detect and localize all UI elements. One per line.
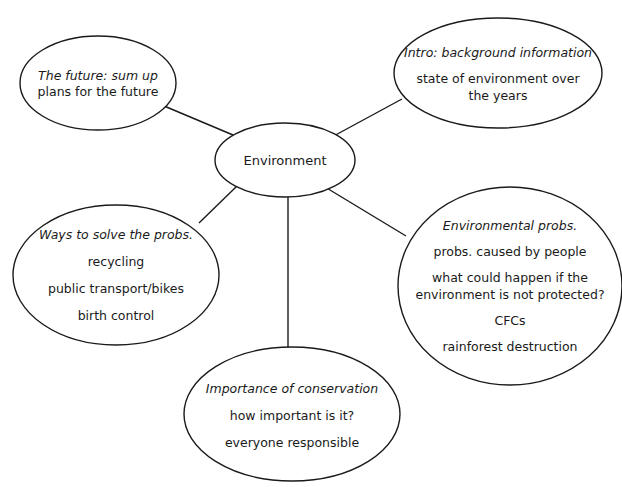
center-label: Environment: [243, 153, 326, 168]
branch-future: The future: sum up plans for the future: [22, 38, 174, 128]
branch-ways-item: recycling: [88, 254, 145, 269]
branch-intro: Intro: background information state of e…: [396, 20, 600, 128]
branch-importance-item: how important is it?: [230, 408, 354, 423]
branch-problems-item: environment is not protected?: [415, 287, 604, 302]
branch-importance: Importance of conservation how important…: [186, 348, 398, 482]
center-node: Environment: [215, 123, 355, 197]
branch-problems-item: CFCs: [494, 313, 525, 328]
branch-intro-item: state of environment over: [416, 71, 579, 86]
mind-map-diagram: Environment The future: sum up plans for…: [0, 0, 622, 487]
branch-intro-item: the years: [469, 88, 528, 103]
branch-future-item: plans for the future: [38, 84, 159, 99]
branch-problems: Environmental probs. probs. caused by pe…: [400, 188, 620, 384]
branch-ways-item: public transport/bikes: [48, 281, 184, 296]
branch-importance-item: everyone responsible: [225, 435, 359, 450]
branch-ways-item: birth control: [78, 308, 155, 323]
branch-problems-item: probs. caused by people: [433, 244, 586, 259]
branch-problems-item: what could happen if the: [432, 270, 588, 285]
branch-problems-heading: Environmental probs.: [443, 218, 577, 233]
branch-ways-heading: Ways to solve the probs.: [39, 227, 193, 242]
branch-importance-heading: Importance of conservation: [206, 381, 378, 396]
branch-problems-item: rainforest destruction: [442, 339, 577, 354]
branch-future-heading: The future: sum up: [38, 68, 158, 83]
branch-ways: Ways to solve the probs. recycling publi…: [14, 205, 218, 345]
branch-intro-heading: Intro: background information: [404, 45, 592, 60]
